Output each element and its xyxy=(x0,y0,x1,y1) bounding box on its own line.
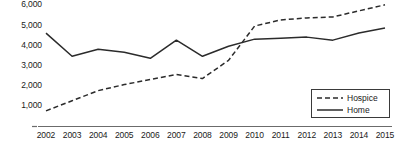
legend-swatch-dashed-icon xyxy=(317,93,343,103)
x-tick-label: 2011 xyxy=(272,130,290,140)
x-tick-label: 2005 xyxy=(115,130,134,140)
legend-item-home: Home xyxy=(317,104,370,116)
x-tick-label: 2003 xyxy=(63,130,82,140)
x-tick-label: 2008 xyxy=(193,130,212,140)
legend-swatch-solid-icon xyxy=(317,105,343,115)
x-tick-label: 2002 xyxy=(37,130,56,140)
x-tick-label: 2013 xyxy=(324,130,343,140)
x-tick-label: 2010 xyxy=(245,130,264,140)
x-tick-label: 2014 xyxy=(350,130,369,140)
legend-item-hospice: Hospice xyxy=(317,92,378,104)
chart-legend: Hospice Home xyxy=(311,89,390,118)
x-axis-tick-labels: 2002200320042005200620072008200920102011… xyxy=(0,0,398,145)
line-chart: 1,0002,0003,0004,0005,0006,000 200220032… xyxy=(0,0,398,145)
x-tick-label: 2006 xyxy=(141,130,160,140)
x-tick-label: 2009 xyxy=(219,130,238,140)
x-tick-label: 2004 xyxy=(89,130,108,140)
x-tick-label: 2012 xyxy=(298,130,317,140)
x-tick-label: 2007 xyxy=(167,130,186,140)
legend-label-hospice: Hospice xyxy=(347,93,378,103)
legend-label-home: Home xyxy=(347,105,370,115)
x-tick-label: 2015 xyxy=(376,130,395,140)
